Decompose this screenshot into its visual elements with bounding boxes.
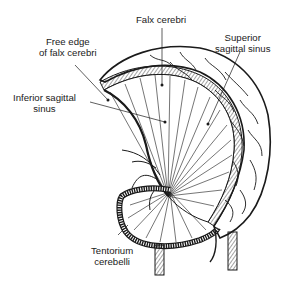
label-text: sagittal sinus	[215, 43, 270, 54]
label-text: Inferior sagittal	[13, 92, 76, 103]
label-text: cerebelli	[91, 256, 133, 267]
label-text: Falx cerebri	[136, 14, 186, 25]
label-text: Superior	[215, 32, 270, 43]
label-text: of falx cerebri	[39, 47, 97, 58]
dura-mater-diagram: Falx cerebri Free edge of falx cerebri S…	[0, 0, 283, 281]
label-falx-cerebri: Falx cerebri	[136, 14, 186, 25]
label-superior-sagittal-sinus: Superior sagittal sinus	[215, 32, 270, 54]
label-text: sinus	[13, 103, 76, 114]
label-text: Tentorium	[91, 245, 133, 256]
label-free-edge-falx: Free edge of falx cerebri	[39, 36, 97, 58]
label-inferior-sagittal-sinus: Inferior sagittal sinus	[13, 92, 76, 114]
label-text: Free edge	[39, 36, 97, 47]
label-tentorium-cerebelli: Tentorium cerebelli	[91, 245, 133, 267]
